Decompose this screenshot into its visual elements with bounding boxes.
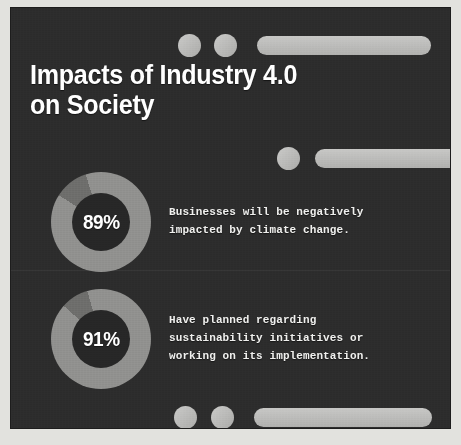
top-pill-icon — [257, 36, 431, 55]
page-title-line-1: Impacts of Industry 4.0 — [30, 60, 309, 90]
stat-line: impacted by climate change. — [169, 222, 363, 240]
bottom-dot-1-icon — [174, 406, 197, 428]
infographic-poster: Impacts of Industry 4.0 on Society 89% B… — [0, 0, 461, 445]
stat-line: sustainability initiatives or — [169, 330, 370, 348]
stat-line: Businesses will be negatively — [169, 204, 363, 222]
page-title-line-2: on Society — [30, 90, 309, 120]
bottom-dot-2-icon — [211, 406, 234, 428]
donut-value-label: 91% — [83, 328, 120, 351]
bottom-pill-icon — [254, 408, 432, 427]
donut-value-label: 89% — [83, 211, 120, 234]
donut-chart-91: 91% — [51, 289, 151, 389]
page-title: Impacts of Industry 4.0 on Society — [30, 60, 309, 120]
poster-panel: Impacts of Industry 4.0 on Society 89% B… — [11, 8, 450, 428]
stat-description: Have planned regarding sustainability in… — [169, 312, 370, 365]
middle-pill-icon — [315, 149, 450, 168]
stat-line: Have planned regarding — [169, 312, 370, 330]
stat-row: 91% Have planned regarding sustainabilit… — [11, 284, 450, 394]
top-dot-1-icon — [178, 34, 201, 57]
top-dot-2-icon — [214, 34, 237, 57]
stat-row: 89% Businesses will be negatively impact… — [11, 172, 450, 272]
stat-line: working on its implementation. — [169, 348, 370, 366]
middle-dot-icon — [277, 147, 300, 170]
donut-center: 89% — [72, 193, 130, 251]
donut-chart-89: 89% — [51, 172, 151, 272]
donut-center: 91% — [72, 310, 130, 368]
stat-description: Businesses will be negatively impacted b… — [169, 204, 363, 240]
